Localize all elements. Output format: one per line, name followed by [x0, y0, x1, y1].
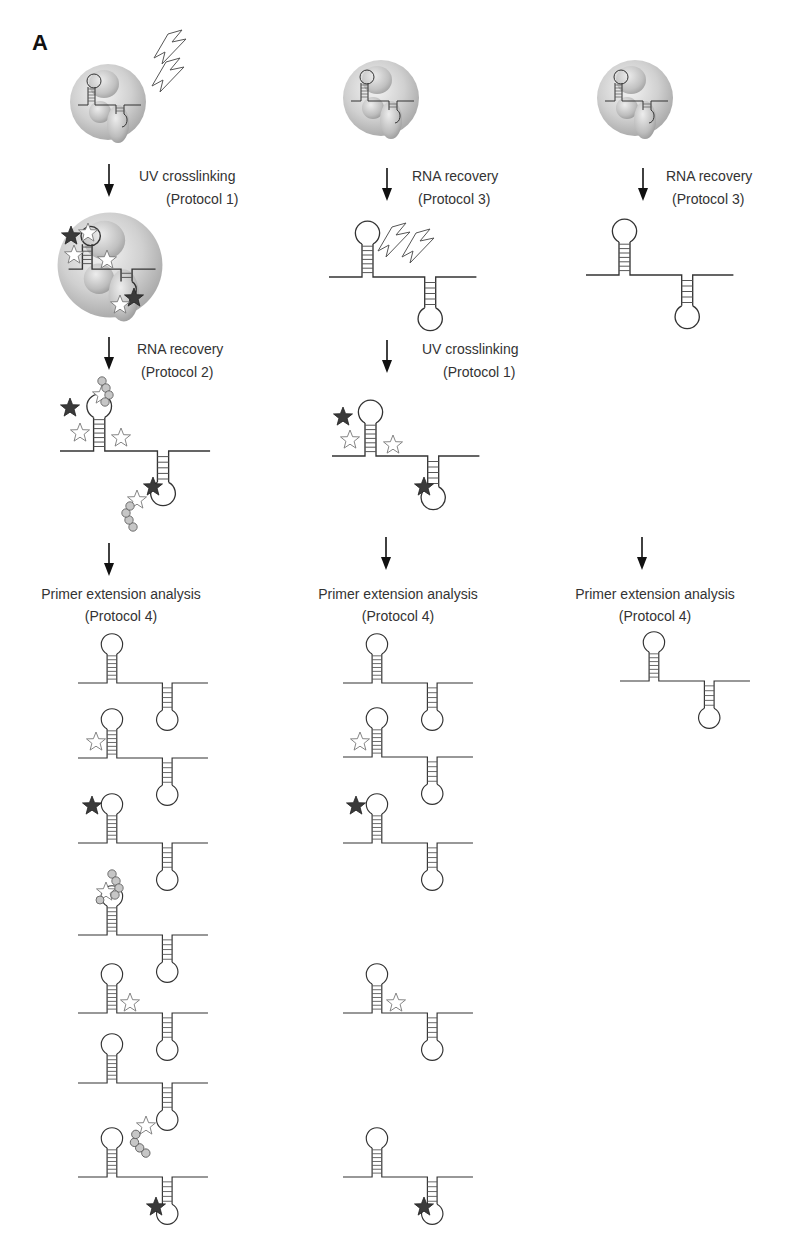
naked-rna-col3	[586, 219, 733, 329]
down-arrow-icon	[638, 168, 648, 201]
uv-bolt-icon-col2	[378, 223, 434, 263]
down-arrow-icon	[104, 337, 114, 370]
down-arrow-icon	[104, 164, 114, 197]
rnp-complex-col2	[343, 60, 419, 139]
down-arrow-icon	[637, 537, 647, 570]
crosslinked-complex-col1	[58, 213, 163, 322]
rnp-complex-col3	[597, 60, 673, 139]
uv-bolt-icon-col1	[152, 30, 186, 92]
rnp-complex-col1	[70, 64, 146, 143]
product-list-col2	[343, 634, 473, 1225]
down-arrow-icon	[382, 168, 392, 201]
down-arrow-icon	[104, 543, 114, 576]
diagram-canvas	[0, 0, 788, 1243]
down-arrow-icon	[381, 537, 391, 570]
product-list-col1	[78, 634, 208, 1225]
rna-crosslinks-col2	[332, 400, 479, 510]
rna-crosslinks-peptides-col1	[60, 377, 210, 531]
product-list-col3	[620, 632, 750, 729]
down-arrow-icon	[382, 340, 392, 373]
